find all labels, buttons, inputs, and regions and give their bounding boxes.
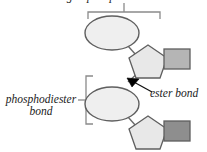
ester-bond-arrow xyxy=(127,78,152,92)
nitrogenous-base-top xyxy=(164,49,190,69)
backbone-caption: sugar-phosphate backbone xyxy=(56,0,185,2)
phosphate-group-bottom xyxy=(85,87,139,121)
ester-bond-label: ester bond xyxy=(150,87,198,99)
nucleotide-backbone-diagram: sugar-phosphate backbone te phosphodiest… xyxy=(0,0,207,152)
phosphate-group-top xyxy=(85,16,139,50)
sugar-ring-top xyxy=(129,45,167,78)
sugar-ring-bottom xyxy=(129,116,167,149)
backbone-bracket xyxy=(88,3,160,19)
diagram-canvas xyxy=(0,0,207,152)
phosphodiester-bond-label-line1: phosphodiester xyxy=(6,93,76,105)
nitrogenous-base-bottom xyxy=(164,121,190,141)
phosphodiester-bond-label: phosphodiesterbond xyxy=(2,93,80,117)
phosphodiester-bond-label-line2: bond xyxy=(2,105,80,117)
